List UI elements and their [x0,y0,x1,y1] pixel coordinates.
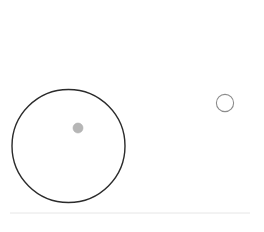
canvas-background [0,0,264,232]
shape-layer [0,0,264,232]
gray-dot[interactable] [73,123,83,133]
diagram-canvas [0,0,264,232]
